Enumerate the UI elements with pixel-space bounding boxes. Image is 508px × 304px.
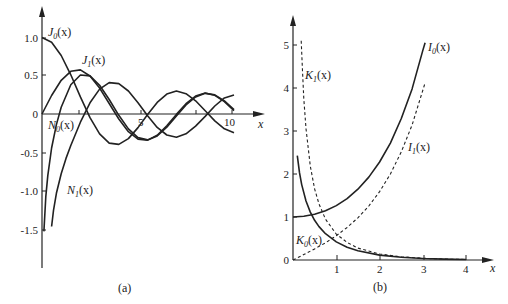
panel-b-x-tick-label: 2 [377,263,383,275]
label-j1: J1(x) [82,53,105,69]
panel-b-y-tick-label: 3 [284,125,290,137]
panel-a-curves [42,38,234,232]
panel-b-x-tick-label: 4 [463,263,469,275]
panel-b-caption: (b) [373,280,387,294]
label-i0: I0(x) [427,40,450,56]
panel-b-y-tick-label: 0 [284,254,290,266]
panel-b-x-tick-label: 1 [334,263,340,275]
panel-a-caption: (a) [118,281,131,295]
panel-b-modified-bessel-i-k: x 1 2 3 4 0 1 2 3 4 5 I0(x) I1(x) K1(x) [284,15,497,294]
label-n1: N1(x) [66,183,93,199]
panel-a-x-tick-10: 10 [224,110,236,128]
panel-a-y-tick-label: 0.5 [24,69,38,81]
panel-a-x-axis-label: x [257,117,264,131]
label-j0: J0(x) [48,25,71,41]
panel-a-y-tick-label: 0 [33,108,39,120]
panel-a-bessel-j-n: x 5 10 1.0 0.5 0 -0.5 -1.0 -1.5 J0(x) [21,6,265,295]
label-k0: K0(x) [295,233,322,249]
panel-b-x-axis-label: x [489,261,496,275]
panel-b-y-tick-label: 5 [284,39,290,51]
panel-a-y-axis-arrow [39,6,45,17]
panel-a-y-tick-label: -0.5 [21,147,39,159]
bessel-function-figure: x 5 10 1.0 0.5 0 -0.5 -1.0 -1.5 J0(x) [0,0,508,304]
label-n0: N0(x) [47,118,74,134]
label-i1: I1(x) [407,140,430,156]
panel-b-y-tick-label: 4 [284,82,290,94]
panel-a-y-tick-label: 1.0 [24,32,38,44]
curve-n1x [52,83,234,227]
panel-a-y-tick-label: -1.0 [21,185,39,197]
panel-b-y-axis-arrow [290,15,296,26]
panel-b-y-tick-label: 2 [284,168,290,180]
panel-b-y-tick-label: 1 [284,211,290,223]
panel-b-x-tick-label: 3 [421,263,427,275]
label-k1: K1(x) [304,68,331,84]
panel-a-x-tick-label: 10 [224,116,236,128]
panel-b-y-ticks: 0 1 2 3 4 5 [284,39,298,266]
panel-a-x-tick-5: 5 [138,110,144,128]
curve-n0x [44,75,234,231]
panel-a-y-tick-label: -1.5 [21,224,39,236]
panel-a-x-tick-label: 5 [138,116,144,128]
